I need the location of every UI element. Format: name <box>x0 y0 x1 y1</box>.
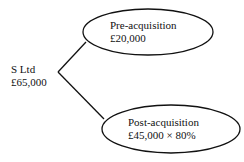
connector-post <box>58 72 104 119</box>
connector-pre <box>58 42 86 72</box>
post-acquisition-title: Post-acquisition <box>128 116 199 129</box>
post-acquisition-label: Post-acquisition £45,000 × 80% <box>128 116 199 142</box>
pre-acquisition-value: £20,000 <box>110 32 177 45</box>
root-name: S Ltd <box>11 63 47 76</box>
root-node-label: S Ltd £65,000 <box>11 63 47 89</box>
root-value: £65,000 <box>11 76 47 89</box>
post-acquisition-value: £45,000 × 80% <box>128 129 199 142</box>
pre-acquisition-title: Pre-acquisition <box>110 19 177 32</box>
diagram-canvas: S Ltd £65,000 Pre-acquisition £20,000 Po… <box>0 0 244 162</box>
pre-acquisition-label: Pre-acquisition £20,000 <box>110 19 177 45</box>
